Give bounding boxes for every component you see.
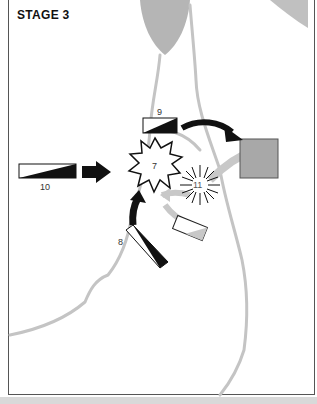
unit-8 bbox=[126, 225, 168, 268]
unit-label-10: 10 bbox=[40, 182, 50, 192]
arrow-8 bbox=[130, 190, 146, 203]
marker-label-11: 11 bbox=[193, 180, 202, 190]
unit-label-8: 8 bbox=[118, 237, 123, 247]
terrain-corner bbox=[270, 0, 308, 28]
map-canvas bbox=[0, 0, 317, 404]
objective-square bbox=[240, 139, 278, 178]
unit-label-9: 9 bbox=[157, 107, 162, 117]
rivers bbox=[10, 5, 247, 395]
unit-9 bbox=[143, 118, 177, 133]
unit-10 bbox=[19, 164, 76, 178]
terrain-hill bbox=[140, 0, 190, 55]
arrow-10 bbox=[82, 161, 111, 183]
enemy-unit bbox=[173, 216, 208, 241]
curved-arrow-head bbox=[224, 126, 243, 142]
marker-label-7: 7 bbox=[152, 161, 157, 171]
stage-title: STAGE 3 bbox=[17, 8, 70, 22]
